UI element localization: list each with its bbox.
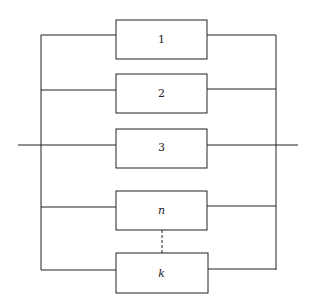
block-n-label: n: [158, 204, 165, 217]
parallel-diagram: 1 2 3 n k: [0, 0, 312, 303]
block-1-label: 1: [158, 33, 165, 46]
block-k-label: k: [158, 267, 165, 280]
block-3-label: 3: [158, 141, 165, 154]
block-2-label: 2: [158, 87, 165, 100]
